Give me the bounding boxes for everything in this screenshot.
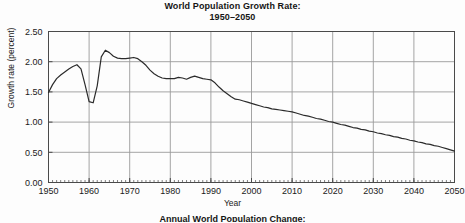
x-tick-label: 2030 (363, 186, 383, 196)
x-tick-label: 2010 (282, 186, 302, 196)
y-axis-tick-labels: 0.000.501.001.502.002.50 (25, 27, 43, 188)
chart-figure: World Population Growth Rate: 1950–2050 … (0, 0, 465, 223)
x-tick-label: 1980 (160, 186, 180, 196)
x-tick-label: 2050 (444, 186, 464, 196)
x-tick-label: 1990 (201, 186, 221, 196)
x-axis-title: Year (0, 198, 465, 208)
x-tick-label: 2020 (323, 186, 343, 196)
x-tick-label: 2040 (404, 186, 424, 196)
grid-lines (49, 32, 455, 183)
x-tick-label: 1950 (38, 186, 58, 196)
x-tick-label: 1960 (79, 186, 99, 196)
y-tick-label: 1.50 (25, 87, 43, 97)
y-tick-label: 2.50 (25, 27, 43, 37)
x-tick-label: 2000 (241, 186, 261, 196)
x-tick-label: 1970 (120, 186, 140, 196)
x-axis-tick-labels: 1950196019701980199020002010202020302040… (38, 186, 464, 196)
y-tick-label: 0.50 (25, 148, 43, 158)
y-tick-label: 1.00 (25, 117, 43, 127)
y-tick-label: 2.00 (25, 57, 43, 67)
figure-caption: Annual World Population Change: (0, 214, 465, 223)
plot-area: 0.000.501.001.502.002.50 195019601970198… (0, 0, 465, 223)
y-axis-title: Growth rate (percent) (6, 8, 16, 128)
